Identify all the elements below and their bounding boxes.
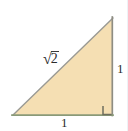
triangle-figure: √2 1 1 [0, 0, 128, 131]
radical-group: √2 [43, 50, 59, 66]
radicand-value: 2 [51, 51, 59, 66]
vertical-leg-length-label: 1 [117, 62, 124, 75]
hypotenuse-length-label: √2 [43, 50, 59, 66]
horizontal-leg-length-label: 1 [61, 116, 68, 129]
right-edge-hairline [127, 0, 128, 131]
triangle-svg [0, 0, 128, 131]
